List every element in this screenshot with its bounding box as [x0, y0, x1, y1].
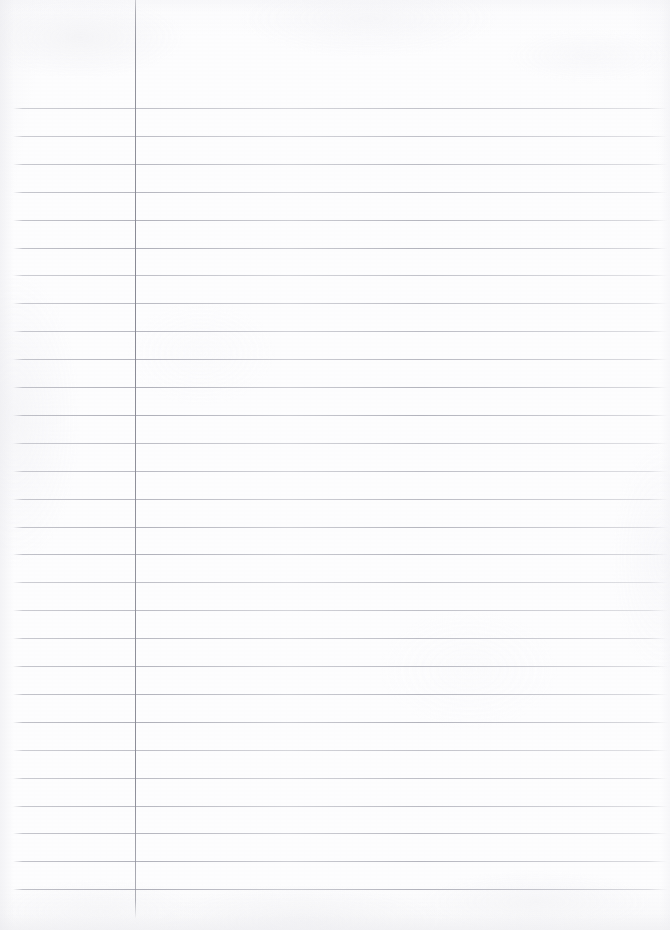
- notebook-page: [0, 0, 670, 930]
- page-writing-area[interactable]: [140, 100, 666, 920]
